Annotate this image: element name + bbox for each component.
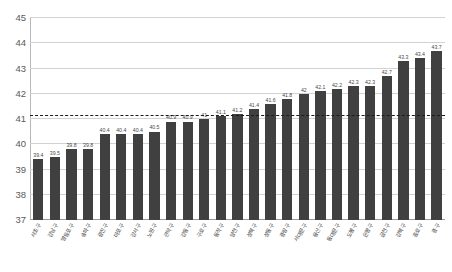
bar-slot: 40.5 — [146, 18, 163, 220]
bar[interactable]: 40.4 — [116, 134, 126, 220]
bar-chart: 454443424140393837 39.439.539.839.840.44… — [0, 0, 452, 272]
x-axis-category-label: 강동구 — [180, 223, 192, 239]
bars-container: 39.439.539.839.840.440.440.440.540.940.9… — [30, 18, 445, 220]
bar[interactable]: 43.3 — [398, 61, 408, 220]
bar-slot: 41 — [196, 18, 213, 220]
bar[interactable]: 41.4 — [249, 109, 259, 220]
bar[interactable]: 42 — [299, 94, 309, 220]
x-axis-category-label: 용산구 — [313, 223, 325, 239]
x-label-slot: 강남구 — [47, 221, 64, 272]
bar-value-label: 43.3 — [398, 55, 408, 60]
x-label-slot: 성북구 — [246, 221, 263, 272]
bar[interactable]: 41.2 — [232, 114, 242, 220]
bar-slot: 39.8 — [80, 18, 97, 220]
y-axis-tick-label: 41 — [15, 114, 26, 124]
y-axis-tick-label: 42 — [15, 89, 26, 99]
bar[interactable]: 40.9 — [166, 122, 176, 220]
x-axis-category-label: 구로구 — [197, 223, 209, 239]
bar-value-label: 42 — [301, 88, 307, 93]
x-axis-category-label: 중랑구 — [280, 223, 292, 239]
bar-slot: 41.1 — [213, 18, 230, 220]
bar-slot: 40.9 — [163, 18, 180, 220]
x-axis-category-label: 마포구 — [114, 223, 126, 239]
bar[interactable]: 40.9 — [183, 122, 193, 220]
bar-slot: 42.1 — [312, 18, 329, 220]
bar[interactable]: 39.4 — [33, 159, 43, 220]
x-axis-category-label: 중구 — [432, 223, 442, 234]
bar-slot: 40.4 — [130, 18, 147, 220]
y-axis-tick-label: 40 — [15, 140, 26, 150]
x-axis-category-label: 강남구 — [47, 223, 59, 239]
bar-value-label: 39.8 — [66, 143, 76, 148]
x-axis-category-label: 영등포구 — [61, 223, 76, 243]
x-axis-category-label: 노원구 — [147, 223, 159, 239]
bar-slot: 42 — [296, 18, 313, 220]
bar[interactable]: 40.5 — [149, 132, 159, 220]
bar-slot: 42.3 — [362, 18, 379, 220]
x-axis-category-label: 성동구 — [263, 223, 275, 239]
bar[interactable]: 42.2 — [332, 89, 342, 220]
x-label-slot: 동작구 — [213, 221, 230, 272]
bar[interactable]: 43.4 — [415, 58, 425, 220]
bar[interactable]: 41 — [199, 119, 209, 220]
bar-slot: 41.8 — [279, 18, 296, 220]
bar-slot: 43.3 — [395, 18, 412, 220]
x-label-slot: 성동구 — [262, 221, 279, 272]
bar-slot: 40.4 — [96, 18, 113, 220]
bar[interactable]: 43.7 — [431, 51, 441, 220]
x-axis-category-label: 강서구 — [130, 223, 142, 239]
bar[interactable]: 42.3 — [348, 86, 358, 220]
x-axis-category-label: 관악구 — [164, 223, 176, 239]
y-axis-tick-label: 37 — [15, 215, 26, 225]
x-axis-category-label: 금천구 — [379, 223, 391, 239]
bar[interactable]: 42.3 — [365, 86, 375, 220]
x-label-slot: 중랑구 — [279, 221, 296, 272]
bar[interactable]: 39.8 — [66, 149, 76, 220]
bar-value-label: 40.4 — [133, 128, 143, 133]
x-label-slot: 금천구 — [378, 221, 395, 272]
bar-slot: 39.5 — [47, 18, 64, 220]
x-label-slot: 서대문구 — [296, 221, 313, 272]
bar-value-label: 39.4 — [33, 153, 43, 158]
bar-value-label: 41.4 — [249, 103, 259, 108]
bar-value-label: 42.3 — [349, 80, 359, 85]
x-label-slot: 구로구 — [196, 221, 213, 272]
bar-value-label: 43.7 — [431, 45, 441, 50]
x-axis-category-label: 서대문구 — [294, 223, 309, 243]
x-label-slot: 용산구 — [312, 221, 329, 272]
bar-slot: 43.4 — [412, 18, 429, 220]
bar[interactable]: 41.8 — [282, 99, 292, 220]
bar-slot: 42.3 — [345, 18, 362, 220]
bar[interactable]: 40.4 — [133, 134, 143, 220]
bar-value-label: 40.4 — [116, 128, 126, 133]
x-axis-category-label: 은평구 — [363, 223, 375, 239]
bar-slot: 40.4 — [113, 18, 130, 220]
bar-slot: 42.7 — [378, 18, 395, 220]
bar[interactable]: 39.5 — [50, 157, 60, 220]
x-label-slot: 서초구 — [30, 221, 47, 272]
bar-value-label: 41.8 — [282, 93, 292, 98]
bar[interactable]: 40.4 — [100, 134, 110, 220]
bar-slot: 41.6 — [262, 18, 279, 220]
x-label-slot: 은평구 — [362, 221, 379, 272]
bar[interactable]: 39.8 — [83, 149, 93, 220]
bar-slot: 41.4 — [246, 18, 263, 220]
bar[interactable]: 42.1 — [315, 91, 325, 220]
bar-slot: 43.7 — [428, 18, 445, 220]
bar-slot: 40.9 — [179, 18, 196, 220]
x-label-slot: 강동구 — [179, 221, 196, 272]
y-axis-tick-label: 45 — [15, 13, 26, 23]
x-axis-category-label: 양천구 — [230, 223, 242, 239]
bar-value-label: 42.2 — [332, 83, 342, 88]
x-axis-category-label: 송파구 — [81, 223, 93, 239]
x-axis-category-label: 광진구 — [97, 223, 109, 239]
x-axis-labels: 서초구강남구영등포구송파구광진구마포구강서구노원구관악구강동구구로구동작구양천구… — [30, 221, 445, 272]
bar[interactable]: 41.6 — [265, 104, 275, 220]
bar-value-label: 41.6 — [266, 98, 276, 103]
bar[interactable]: 42.7 — [382, 76, 392, 220]
y-axis-tick-label: 39 — [15, 165, 26, 175]
bar[interactable]: 41.1 — [216, 116, 226, 220]
x-axis-category-label: 도봉구 — [346, 223, 358, 239]
x-label-slot: 광진구 — [96, 221, 113, 272]
bar-value-label: 40.5 — [149, 125, 159, 130]
